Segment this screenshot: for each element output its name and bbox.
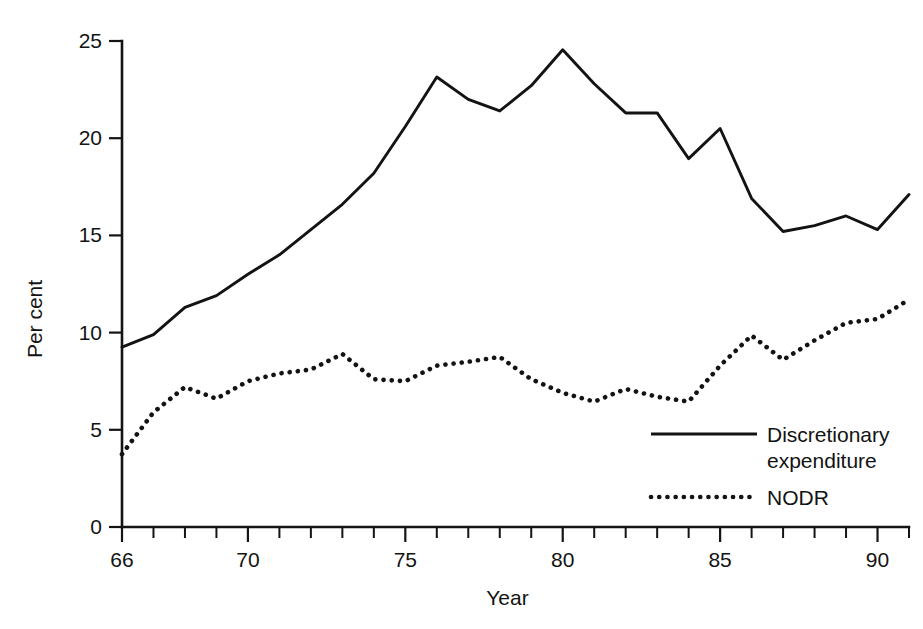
y-axis-tick-label: 25 [79,29,102,52]
line-chart-svg: 0510152025667075808590YearPer cent Discr… [0,0,923,629]
x-axis-title: Year [486,586,528,609]
x-axis-tick-label: 66 [110,548,133,571]
x-axis-tick-label: 80 [551,548,574,571]
axis-labels: 0510152025667075808590YearPer cent [23,29,889,609]
legend-label-discretionary-expenditure-line2: expenditure [767,449,877,472]
legend-label-discretionary-expenditure: Discretionary [767,423,890,446]
chart-figure: 0510152025667075808590YearPer cent Discr… [0,0,923,629]
y-axis-tick-label: 10 [79,321,102,344]
y-axis-tick-label: 20 [79,126,102,149]
series-line-discretionary-expenditure [122,50,909,347]
y-axis-tick-label: 15 [79,223,102,246]
data-series [122,50,909,454]
chart-legend: DiscretionaryexpenditureNODR [651,423,890,509]
y-axis-tick-label: 5 [90,418,102,441]
x-axis-tick-label: 70 [236,548,259,571]
y-axis-tick-label: 0 [90,515,102,538]
x-axis-tick-label: 85 [708,548,731,571]
x-axis-tick-label: 90 [866,548,889,571]
y-axis-title: Per cent [23,280,46,358]
x-axis-tick-label: 75 [394,548,417,571]
legend-label-nodr: NODR [767,486,829,509]
